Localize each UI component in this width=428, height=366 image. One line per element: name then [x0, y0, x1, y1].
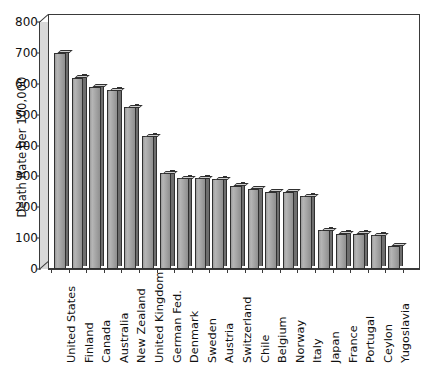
x-tick-label: Chile	[260, 334, 271, 363]
x-tick-mark	[209, 269, 210, 273]
bar-top-face	[233, 183, 248, 186]
bar-front-face	[230, 186, 242, 269]
x-tick-mark	[368, 269, 369, 273]
x-tick-mark	[297, 269, 298, 273]
bar-top-face	[57, 50, 72, 53]
bar-top-face	[197, 176, 212, 179]
bar-top-face	[321, 228, 336, 231]
x-tick-label: Norway	[295, 320, 306, 363]
x-tick-mark	[104, 269, 105, 273]
bar	[195, 14, 212, 269]
x-tick-label: Switzerland	[242, 297, 253, 363]
bar-top-face	[180, 176, 195, 179]
x-tick-mark	[262, 269, 263, 273]
x-tick-label: Canada	[101, 320, 112, 363]
x-tick-label: Sweden	[207, 318, 218, 363]
bar-top-face	[215, 177, 230, 180]
bar-front-face	[336, 234, 348, 270]
bar-front-face	[371, 235, 383, 269]
bar-top-face	[109, 88, 124, 91]
x-tick-mark	[350, 269, 351, 273]
bar	[72, 14, 89, 269]
bar-front-face	[72, 78, 84, 269]
x-tick-mark	[174, 269, 175, 273]
x-tick-mark	[86, 269, 87, 273]
bar	[265, 14, 282, 269]
x-tick-mark	[51, 269, 52, 273]
bar	[160, 14, 177, 269]
bar	[371, 14, 388, 269]
x-tick-label: Yugoslavia	[400, 303, 411, 363]
x-tick-mark	[69, 269, 70, 273]
bar-top-face	[74, 75, 89, 78]
x-tick-mark	[121, 269, 122, 273]
y-tick-label: 100	[4, 232, 38, 244]
bar-top-face	[127, 105, 142, 108]
bar	[283, 14, 300, 269]
bar-front-face	[107, 90, 119, 269]
x-tick-label: Denmark	[189, 311, 200, 363]
x-tick-label: Finland	[84, 322, 95, 363]
bar-front-face	[265, 192, 277, 269]
bar	[89, 14, 106, 269]
bar-top-face	[373, 233, 388, 236]
y-axis-ticks: 0100200300400500600700800	[0, 0, 38, 366]
bar-front-face	[353, 234, 365, 270]
bar	[230, 14, 247, 269]
x-tick-label: Japan	[330, 331, 341, 363]
bar-front-face	[212, 179, 224, 269]
x-tick-mark	[192, 269, 193, 273]
y-tick-label: 600	[4, 78, 38, 90]
x-tick-label: New Zealand	[136, 288, 147, 363]
bar-front-face	[124, 107, 136, 269]
bar-front-face	[283, 192, 295, 269]
x-tick-mark	[315, 269, 316, 273]
bar-top-face	[162, 171, 177, 174]
y-tick-label: 300	[4, 170, 38, 182]
x-axis-labels: United StatesFinlandCanadaAustraliaNew Z…	[48, 275, 420, 366]
y-tick-label: 200	[4, 201, 38, 213]
bar-front-face	[300, 196, 312, 269]
bar	[124, 14, 141, 269]
x-axis-ticks	[48, 269, 420, 274]
bar-top-face	[145, 134, 160, 137]
x-tick-mark	[333, 269, 334, 273]
y-tick-label: 700	[4, 47, 38, 59]
x-tick-label: Italy	[312, 338, 323, 363]
bar-top-face	[250, 186, 265, 189]
bar-top-face	[356, 231, 371, 234]
x-tick-label: German Fed.	[172, 290, 183, 363]
bar-series	[48, 14, 420, 269]
x-tick-mark	[403, 269, 404, 273]
y-tick-label: 400	[4, 140, 38, 152]
bar-top-face	[338, 231, 353, 234]
bar	[142, 14, 159, 269]
x-tick-label: Ceylon	[383, 324, 394, 363]
x-tick-label: Portugal	[365, 316, 376, 363]
bar-top-face	[303, 194, 318, 197]
y-tick-label: 500	[4, 109, 38, 121]
axis-box-left-wall	[39, 22, 48, 269]
bar-front-face	[388, 246, 400, 269]
x-tick-label: United States	[66, 286, 77, 363]
x-tick-mark	[385, 269, 386, 273]
bar-top-face	[92, 84, 107, 87]
bar-front-face	[54, 53, 66, 269]
bar-front-face	[318, 230, 330, 269]
x-tick-label: United Kingdom	[154, 272, 165, 363]
bar-top-face	[285, 189, 300, 192]
bar	[107, 14, 124, 269]
bar	[336, 14, 353, 269]
bar-front-face	[248, 189, 260, 269]
x-tick-mark	[245, 269, 246, 273]
bar	[177, 14, 194, 269]
x-tick-mark	[139, 269, 140, 273]
bar	[353, 14, 370, 269]
bar-front-face	[89, 87, 101, 269]
bar-top-face	[268, 189, 283, 192]
bar	[212, 14, 229, 269]
x-tick-mark	[280, 269, 281, 273]
bar	[318, 14, 335, 269]
y-tick-label: 800	[4, 16, 38, 28]
bar	[388, 14, 405, 269]
